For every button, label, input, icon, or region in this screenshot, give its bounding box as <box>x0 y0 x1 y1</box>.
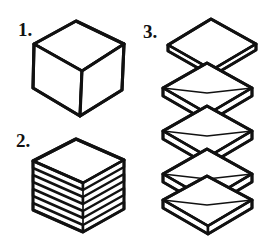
step-1-label: 1. <box>18 19 32 40</box>
sliced-cube-top-face <box>33 139 124 183</box>
figure-2-sliced-cube <box>33 139 124 232</box>
figure-svg: 1. <box>0 0 266 236</box>
figure-1-cube <box>33 21 124 116</box>
exploded-slab-top-top-face <box>168 19 256 70</box>
step-2-label: 2. <box>16 130 30 151</box>
drawing-canvas: 1. <box>0 0 266 236</box>
figure-3-exploded-stack <box>163 19 256 234</box>
step-3-label: 3. <box>143 21 157 42</box>
